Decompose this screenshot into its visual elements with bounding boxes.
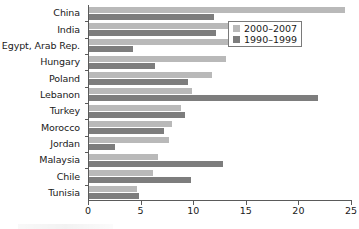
x-axis-ticks: 0510152025	[88, 201, 353, 223]
category-label: Morocco	[0, 119, 84, 135]
category-label: China	[0, 5, 84, 21]
y-axis-tick	[85, 38, 88, 39]
bar-series2	[89, 112, 185, 118]
x-axis-tick-label: 5	[138, 206, 144, 216]
category-label: Poland	[0, 70, 84, 86]
category-label: Egypt, Arab Rep.	[0, 38, 84, 54]
legend-label: 1990–1999	[244, 35, 297, 45]
bar-series2	[89, 46, 133, 52]
bar-chart: ChinaIndiaEgypt, Arab Rep.HungaryPolandL…	[0, 0, 359, 229]
category-label: Hungary	[0, 54, 84, 70]
bar-group	[89, 38, 352, 54]
plot-area	[88, 5, 352, 201]
bar-group	[89, 103, 352, 119]
y-axis-tick	[85, 119, 88, 120]
bar-series1	[89, 170, 153, 176]
x-axis-tick-label: 20	[292, 206, 304, 216]
legend-item: 2000–2007	[232, 24, 297, 34]
y-axis-tick	[85, 168, 88, 169]
bar-group	[89, 119, 352, 135]
bar-group	[89, 54, 352, 70]
bar-series2	[89, 177, 191, 183]
category-label: India	[0, 21, 84, 37]
bar-series1	[89, 154, 158, 160]
bar-group	[89, 136, 352, 152]
bar-series1	[89, 72, 212, 78]
bar-series1	[89, 88, 192, 94]
bar-series1	[89, 56, 226, 62]
scan-artifact	[18, 224, 113, 229]
bar-series2	[89, 14, 214, 20]
bar-series2	[89, 144, 115, 150]
category-label: Jordan	[0, 136, 84, 152]
legend-label: 2000–2007	[244, 24, 297, 34]
bar-rows	[89, 5, 352, 201]
legend-swatch-icon	[232, 24, 241, 33]
y-axis-tick	[85, 54, 88, 55]
bar-series1	[89, 7, 345, 13]
bar-group	[89, 87, 352, 103]
y-axis-tick	[85, 136, 88, 137]
bar-series1	[89, 105, 181, 111]
bar-series2	[89, 128, 164, 134]
y-axis-tick	[85, 103, 88, 104]
y-axis-tick	[85, 185, 88, 186]
bar-group	[89, 21, 352, 37]
bar-series2	[89, 193, 139, 199]
category-axis-labels: ChinaIndiaEgypt, Arab Rep.HungaryPolandL…	[0, 5, 84, 201]
bar-series2	[89, 63, 155, 69]
legend-item: 1990–1999	[232, 35, 297, 45]
x-axis-tick-label: 0	[85, 206, 91, 216]
bar-group	[89, 168, 352, 184]
category-label: Lebanon	[0, 87, 84, 103]
x-axis-tick-label: 25	[345, 206, 357, 216]
bar-series2	[89, 79, 188, 85]
y-axis-tick	[85, 21, 88, 22]
bar-group	[89, 70, 352, 86]
chart-legend: 2000–20071990–1999	[228, 21, 302, 47]
category-label: Turkey	[0, 103, 84, 119]
bar-group	[89, 152, 352, 168]
bar-series2	[89, 161, 223, 167]
bar-series2	[89, 30, 216, 36]
bar-group	[89, 185, 352, 201]
bar-series1	[89, 186, 137, 192]
x-axis-tick-label: 15	[240, 206, 252, 216]
category-label: Chile	[0, 168, 84, 184]
x-axis-tick-label: 10	[187, 206, 199, 216]
legend-swatch-icon	[232, 35, 241, 44]
y-axis-tick	[85, 152, 88, 153]
category-label: Malaysia	[0, 152, 84, 168]
bar-series2	[89, 95, 318, 101]
bar-group	[89, 5, 352, 21]
category-label: Tunisia	[0, 185, 84, 201]
y-axis-tick	[85, 87, 88, 88]
bar-series1	[89, 121, 172, 127]
y-axis-tick	[85, 70, 88, 71]
bar-series1	[89, 39, 244, 45]
bar-series1	[89, 137, 169, 143]
